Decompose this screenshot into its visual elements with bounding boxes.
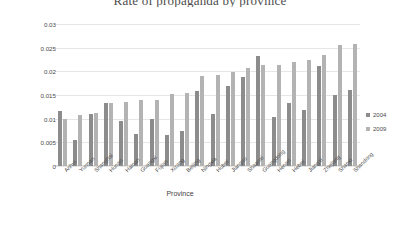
bar-2009 xyxy=(307,60,311,166)
bar-group xyxy=(269,24,284,166)
x-label-slot: Hubei xyxy=(208,167,223,207)
bar-group xyxy=(86,24,101,166)
legend-label: 2004 xyxy=(373,112,386,118)
y-axis-tick-label: 0.01 xyxy=(20,115,56,122)
x-label-slot: Beijing xyxy=(177,167,192,207)
bar-group xyxy=(55,24,70,166)
x-label-slot: Xizang xyxy=(162,167,177,207)
x-label-slot: Shaanxi xyxy=(238,167,253,207)
legend-label: 2009 xyxy=(373,126,386,132)
bar-2009 xyxy=(231,72,235,166)
x-label-slot: Jiangxi xyxy=(299,167,314,207)
legend-item-2004[interactable]: 2004 xyxy=(366,112,386,118)
bar-2009 xyxy=(185,93,189,166)
bar-2004 xyxy=(195,91,199,166)
chart-title-remnant: Rate of propaganda by province xyxy=(0,0,400,7)
bar-group xyxy=(147,24,162,166)
bar-group xyxy=(131,24,146,166)
bar-group xyxy=(299,24,314,166)
bar-2009 xyxy=(292,62,296,166)
legend-swatch-icon xyxy=(366,113,370,117)
bar-2009 xyxy=(353,44,357,166)
bar-series-container xyxy=(55,24,360,166)
bar-2004 xyxy=(348,90,352,166)
y-axis-tick-label: 0.03 xyxy=(20,21,56,28)
bar-group xyxy=(70,24,85,166)
bar-group xyxy=(314,24,329,166)
bar-2009 xyxy=(78,115,82,166)
bar-group xyxy=(116,24,131,166)
bar-group xyxy=(330,24,345,166)
bar-2004 xyxy=(58,111,62,166)
y-axis-tick-label: 0.02 xyxy=(20,68,56,75)
bar-group xyxy=(253,24,268,166)
x-label-slot: Guangxi xyxy=(131,167,146,207)
x-label-slot: Yunnan xyxy=(70,167,85,207)
bar-group xyxy=(345,24,360,166)
bar-2009 xyxy=(63,119,67,166)
bar-2009 xyxy=(246,68,250,166)
bar-2004 xyxy=(241,77,245,166)
bar-2009 xyxy=(170,94,174,166)
legend-swatch-icon xyxy=(366,127,370,131)
y-axis-tick-label: 0.015 xyxy=(20,92,56,99)
x-label-slot: Jiangsu xyxy=(223,167,238,207)
bar-2009 xyxy=(139,100,143,166)
bar-group xyxy=(284,24,299,166)
bar-2009 xyxy=(322,55,326,166)
bar-2009 xyxy=(261,65,265,166)
x-label-slot: Zhejiang xyxy=(314,167,329,207)
x-label-slot: Anhui xyxy=(55,167,70,207)
chart-legend: 20042009 xyxy=(366,112,386,140)
bar-2009 xyxy=(338,45,342,166)
bar-2004 xyxy=(226,86,230,166)
x-label-slot: Ningxia xyxy=(192,167,207,207)
bar-2009 xyxy=(124,102,128,166)
bar-group xyxy=(208,24,223,166)
legend-item-2009[interactable]: 2009 xyxy=(366,126,386,132)
bar-2004 xyxy=(317,66,321,166)
bar-group xyxy=(223,24,238,166)
x-label-slot: Shanghai xyxy=(86,167,101,207)
x-axis-title: Province xyxy=(0,190,360,197)
bar-group xyxy=(192,24,207,166)
x-label-slot: Hebei xyxy=(284,167,299,207)
bar-2009 xyxy=(216,75,220,166)
bar-group xyxy=(177,24,192,166)
bar-group xyxy=(162,24,177,166)
bar-group xyxy=(238,24,253,166)
y-axis-tick-label: 0 xyxy=(20,163,56,170)
x-axis-category-labels: AnhuiYunnanShanghaiHunanHainanGuangxiFuj… xyxy=(55,167,360,207)
x-label-slot: Fujian xyxy=(147,167,162,207)
bar-2009 xyxy=(200,76,204,166)
x-label-slot: Hunan xyxy=(101,167,116,207)
x-label-slot: Guangdong xyxy=(253,167,268,207)
bar-2004 xyxy=(256,56,260,166)
x-label-slot: Henan xyxy=(269,167,284,207)
y-axis-tick-label: 0.005 xyxy=(20,139,56,146)
plot-area xyxy=(55,24,360,166)
x-label-slot: Shanxi xyxy=(330,167,345,207)
chart-figure: Rate of propaganda by province Rate of p… xyxy=(0,0,400,229)
x-label-slot: Shandong xyxy=(345,167,360,207)
y-axis-tick-label: 0.025 xyxy=(20,44,56,51)
x-label-slot: Hainan xyxy=(116,167,131,207)
bar-group xyxy=(101,24,116,166)
bar-2004 xyxy=(302,110,306,166)
